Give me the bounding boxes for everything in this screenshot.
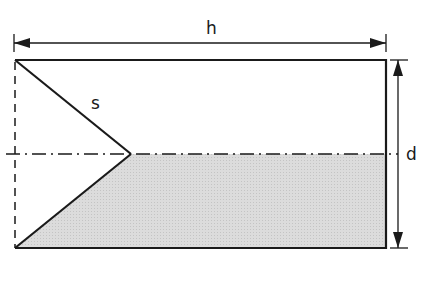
arrow-up-icon [393,60,403,76]
label-s: s [91,93,100,113]
label-h: h [206,18,217,38]
arrow-right-icon [370,38,386,48]
label-d: d [406,144,417,164]
upper-slant-line [15,60,131,154]
shaded-region [15,154,386,248]
arrow-left-icon [14,38,30,48]
arrow-down-icon [393,232,403,248]
h-dimension [14,34,386,52]
channel-cross-section-diagram: h d s [0,0,433,281]
